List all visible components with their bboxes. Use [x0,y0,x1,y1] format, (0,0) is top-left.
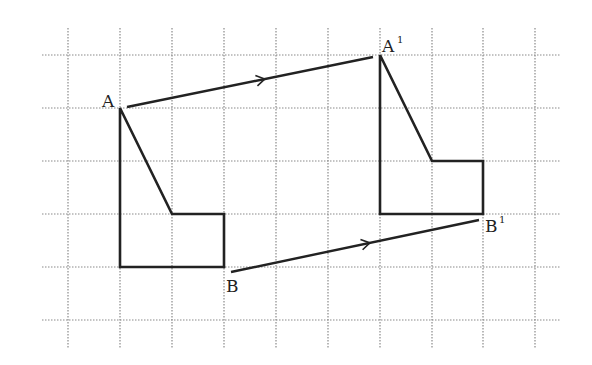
translation-diagram: A B A 1 B 1 [0,0,592,365]
label-b: B [226,276,239,296]
label-b-prime-superscript: 1 [499,214,505,225]
label-a-prime: A [381,36,395,56]
vector-line [231,220,479,272]
label-a-prime-superscript: 1 [397,34,403,45]
label-a: A [101,91,115,111]
vector-line [127,57,373,107]
translation-vectors [127,57,479,272]
label-b-prime: B [485,216,498,236]
